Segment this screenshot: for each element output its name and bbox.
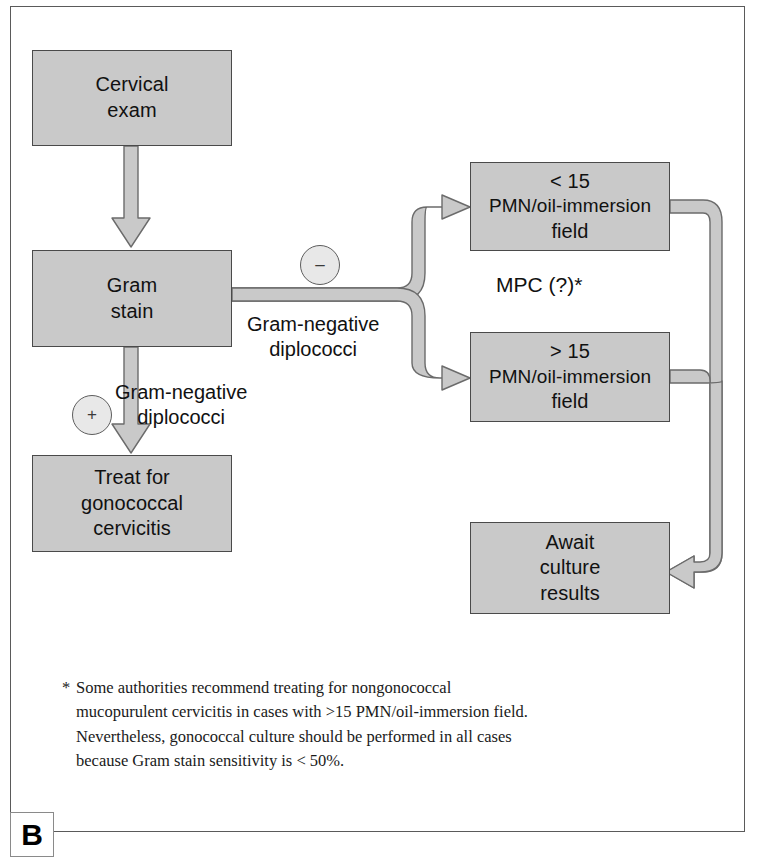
node-gram-stain[interactable]: Gram stain [32,250,232,347]
footnote-line2: mucopurulent cervicitis in cases with >1… [76,700,676,724]
node-treat-gonococcal-cervicitis[interactable]: Treat for gonococcal cervicitis [32,455,232,552]
plus-icon: + [87,405,97,425]
node-await-line1: Await [545,530,594,556]
footnote: * Some authorities recommend treating fo… [76,676,676,774]
edge-label-gram-negative-left-line1: Gram-negative [115,380,247,405]
node-cervical-exam-line2: exam [107,98,156,124]
edge-label-mpc: MPC (?)* [496,272,582,298]
node-gt15-line3: field [551,389,588,415]
node-await-line3: results [540,581,600,607]
connector-gt15-to-await [666,370,722,588]
footnote-marker: * [62,676,70,700]
edge-label-gram-negative-left-line2: diplococci [115,405,247,430]
node-gt15-pmn[interactable]: > 15 PMN/oil-immersion field [470,332,670,422]
node-treat-line3: cervicitis [93,516,171,542]
node-gram-stain-line1: Gram [107,273,157,299]
edge-label-gram-negative-right-line2: diplococci [247,337,379,362]
plus-sign-badge: + [72,395,112,435]
node-cervical-exam-line1: Cervical [95,72,168,98]
arrow-cervical-to-gram [112,146,150,247]
node-lt15-line2: PMN/oil-immersion [489,194,651,218]
edge-label-gram-negative-right-line1: Gram-negative [247,312,379,337]
node-treat-line1: Treat for [94,465,170,491]
connector-gram-to-counts [232,195,470,301]
footnote-line3: Nevertheless, gonococcal culture should … [76,725,676,749]
node-gt15-line2: PMN/oil-immersion [489,365,651,389]
panel-label-b: B [10,812,54,857]
node-lt15-pmn[interactable]: < 15 PMN/oil-immersion field [470,162,670,251]
node-lt15-line3: field [551,219,588,245]
footnote-line4: because Gram stain sensitivity is < 50%. [76,749,676,773]
node-gt15-line1: > 15 [550,339,590,365]
node-await-line2: culture [540,555,601,581]
node-lt15-line1: < 15 [550,169,590,195]
minus-icon: – [315,255,324,275]
figure-panel-b: .conn { fill: #c9c9c9; stroke: #6b6b6b; … [0,0,764,859]
edge-label-gram-negative-left: Gram-negative diplococci [115,380,247,430]
node-await-culture-results[interactable]: Await culture results [470,522,670,614]
footnote-line1: Some authorities recommend treating for … [76,676,676,700]
node-treat-line2: gonococcal [81,491,183,517]
node-cervical-exam[interactable]: Cervical exam [32,50,232,146]
edge-label-gram-negative-right: Gram-negative diplococci [247,312,379,362]
minus-sign-badge: – [300,245,340,285]
node-gram-stain-line2: stain [111,299,154,325]
